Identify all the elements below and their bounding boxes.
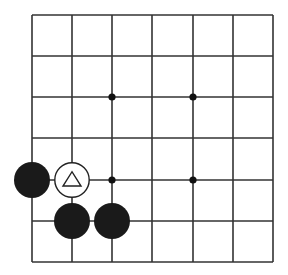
star-point — [189, 176, 196, 183]
white-stone[interactable] — [55, 163, 89, 197]
black-stone-disc — [14, 162, 50, 198]
black-stone[interactable] — [54, 203, 90, 239]
star-point — [189, 93, 196, 100]
star-point — [108, 93, 115, 100]
black-stone-disc — [54, 203, 90, 239]
star-point — [108, 176, 115, 183]
go-board — [0, 0, 288, 275]
white-stone-disc — [55, 163, 89, 197]
go-board-grid — [0, 0, 288, 275]
black-stone-disc — [94, 203, 130, 239]
black-stone[interactable] — [14, 162, 50, 198]
black-stone[interactable] — [94, 203, 130, 239]
